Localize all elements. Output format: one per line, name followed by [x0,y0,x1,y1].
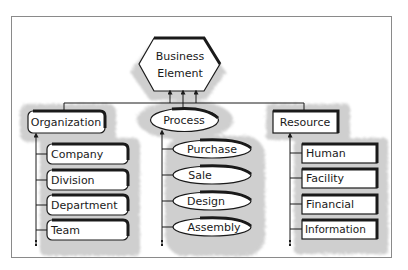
child-department: Department [47,195,128,215]
child-label: Human [306,147,346,160]
child-facility: Facility [302,169,377,188]
category-resource: Resource [273,111,338,133]
child-human: Human [302,144,377,163]
root-label-line2: Element [157,67,203,80]
child-assembly: Assembly [173,218,251,236]
child-label: Financial [306,198,354,211]
child-design: Design [173,192,251,210]
category-process: Process [151,108,219,131]
child-label: Information [305,223,366,235]
category-organization: Organization [28,111,105,133]
child-label: Sale [188,169,212,182]
root-node-business-element: Business Element [139,38,220,91]
child-label: Department [51,199,118,212]
child-division: Division [47,170,128,190]
category-label: Process [163,114,205,127]
child-company: Company [47,144,128,164]
child-purchase: Purchase [173,140,251,158]
child-label: Company [51,148,104,161]
child-label: Design [187,195,225,208]
child-label: Team [50,224,80,237]
business-element-diagram: Business Element Org [0,0,408,270]
child-financial: Financial [302,195,377,214]
child-label: Division [51,174,95,187]
child-team: Team [47,220,128,240]
child-label: Facility [306,172,345,185]
category-label: Organization [31,116,101,129]
child-label: Assembly [187,221,241,234]
root-label-line1: Business [156,50,205,63]
child-information: Information [302,220,377,239]
category-label: Resource [280,116,331,129]
child-sale: Sale [173,166,251,184]
child-label: Purchase [187,143,237,156]
